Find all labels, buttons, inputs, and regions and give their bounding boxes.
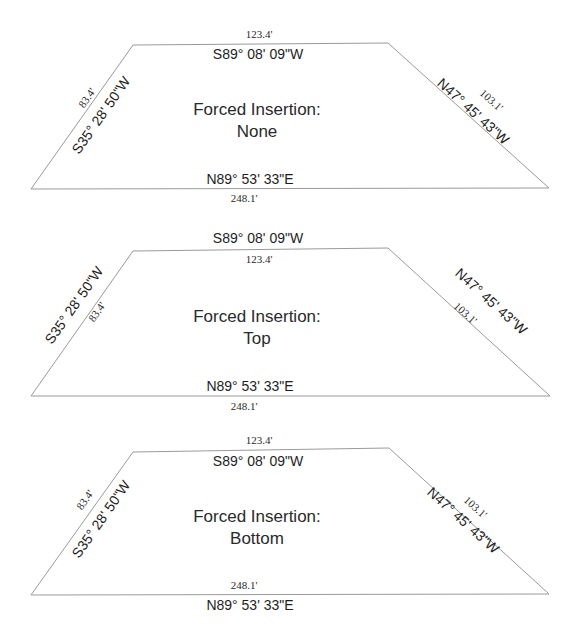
insertion-title: Forced Insertion: xyxy=(193,307,321,326)
top-distance: 123.4' xyxy=(246,434,273,446)
top-bearing: S89° 08' 09"W xyxy=(213,46,304,62)
right-bearing: N47° 45' 43"W xyxy=(434,75,513,148)
bottom-bearing: N89° 53' 33"E xyxy=(206,378,293,394)
top-distance: 123.4' xyxy=(246,253,273,265)
survey-diagram: 123.4' S89° 08' 09"W Forced Insertion: N… xyxy=(0,0,577,638)
insertion-title: Forced Insertion: xyxy=(193,507,321,526)
insertion-mode: None xyxy=(237,122,278,141)
insertion-mode: Top xyxy=(243,329,270,348)
left-distance: 83.4' xyxy=(86,300,108,324)
top-bearing: S89° 08' 09"W xyxy=(213,230,304,246)
left-distance: 83.4' xyxy=(76,86,98,110)
top-bearing: S89° 08' 09"W xyxy=(213,453,304,469)
right-bearing: N47° 45' 43"W xyxy=(452,265,531,338)
right-distance: 103.1' xyxy=(452,300,480,327)
top-distance: 123.4' xyxy=(246,28,273,40)
insertion-mode: Bottom xyxy=(230,529,284,548)
bottom-bearing: N89° 53' 33"E xyxy=(206,597,293,613)
right-bearing: N47° 45' 43"W xyxy=(424,484,503,557)
left-bearing: S35° 28' 50"W xyxy=(68,477,133,561)
bottom-distance: 248.1' xyxy=(231,400,258,412)
panel-bottom: 123.4' S89° 08' 09"W Forced Insertion: B… xyxy=(31,434,549,613)
bottom-distance: 248.1' xyxy=(231,192,258,204)
panel-top: S89° 08' 09"W 123.4' Forced Insertion: T… xyxy=(31,230,550,412)
left-bearing: S35° 28' 50"W xyxy=(68,73,133,157)
bottom-bearing: N89° 53' 33"E xyxy=(206,171,293,187)
insertion-title: Forced Insertion: xyxy=(193,100,321,119)
panel-none: 123.4' S89° 08' 09"W Forced Insertion: N… xyxy=(31,28,549,204)
bottom-distance: 248.1' xyxy=(231,579,258,591)
